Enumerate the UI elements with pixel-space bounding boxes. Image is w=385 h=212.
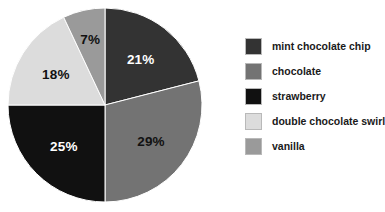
pie-slice-value-label: 29% [137, 134, 165, 149]
pie-svg: 21%29%25%18%7% [0, 0, 215, 212]
legend-color-swatch [245, 88, 262, 105]
legend-color-swatch [245, 38, 262, 55]
pie-slice-value-label: 21% [127, 52, 155, 67]
pie-plot-area: 21%29%25%18%7% [0, 0, 215, 212]
legend-color-swatch [245, 113, 262, 130]
legend: mint chocolate chipchocolatestrawberrydo… [245, 34, 384, 159]
pie-slice-value-label: 18% [42, 67, 70, 82]
legend-item-label: strawberry [272, 91, 326, 102]
legend-item[interactable]: vanilla [245, 134, 384, 159]
legend-item-label: chocolate [272, 66, 321, 77]
legend-item-label: double chocolate swirl [272, 116, 385, 127]
legend-item[interactable]: mint chocolate chip [245, 34, 384, 59]
legend-color-swatch [245, 138, 262, 155]
legend-item-label: mint chocolate chip [272, 41, 371, 52]
legend-item[interactable]: strawberry [245, 84, 384, 109]
pie-slice-value-label: 25% [50, 139, 78, 154]
pie-slice-value-label: 7% [80, 32, 100, 47]
legend-color-swatch [245, 63, 262, 80]
legend-item-label: vanilla [272, 141, 305, 152]
pie-slices [8, 8, 202, 202]
legend-item[interactable]: double chocolate swirl [245, 109, 384, 134]
legend-item[interactable]: chocolate [245, 59, 384, 84]
